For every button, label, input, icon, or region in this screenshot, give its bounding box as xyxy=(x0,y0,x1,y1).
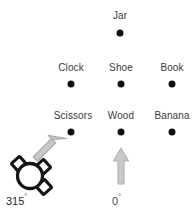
reference-arrow-icon xyxy=(114,148,129,184)
object-label-banana: Banana xyxy=(154,110,189,121)
vector-layer xyxy=(0,0,196,216)
degree-symbol-icon: ° xyxy=(118,193,121,200)
object-dot-book xyxy=(169,81,176,88)
heading-arrow-icon xyxy=(33,135,66,161)
degree-symbol-icon: ° xyxy=(24,193,27,200)
object-label-book: Book xyxy=(160,62,183,73)
object-dot-shoe xyxy=(118,81,125,88)
robot-heading-angle-label: 315° xyxy=(6,192,27,207)
object-label-shoe: Shoe xyxy=(109,62,133,73)
object-label-jar: Jar xyxy=(113,10,127,21)
robot-heading-angle-value: 315 xyxy=(6,195,24,207)
robot-icon xyxy=(11,156,52,195)
object-dot-scissors xyxy=(68,129,75,136)
reference-heading-angle-label: 0° xyxy=(112,192,121,207)
object-dot-wood xyxy=(118,129,125,136)
object-label-wood: Wood xyxy=(108,110,134,121)
object-label-clock: Clock xyxy=(58,62,84,73)
object-dot-banana xyxy=(169,129,176,136)
object-label-scissors: Scissors xyxy=(54,110,93,121)
diagram-canvas: Jar Clock Shoe Book Scissors Wood Banana… xyxy=(0,0,196,216)
object-dot-clock xyxy=(68,81,75,88)
object-dot-jar xyxy=(117,30,124,37)
